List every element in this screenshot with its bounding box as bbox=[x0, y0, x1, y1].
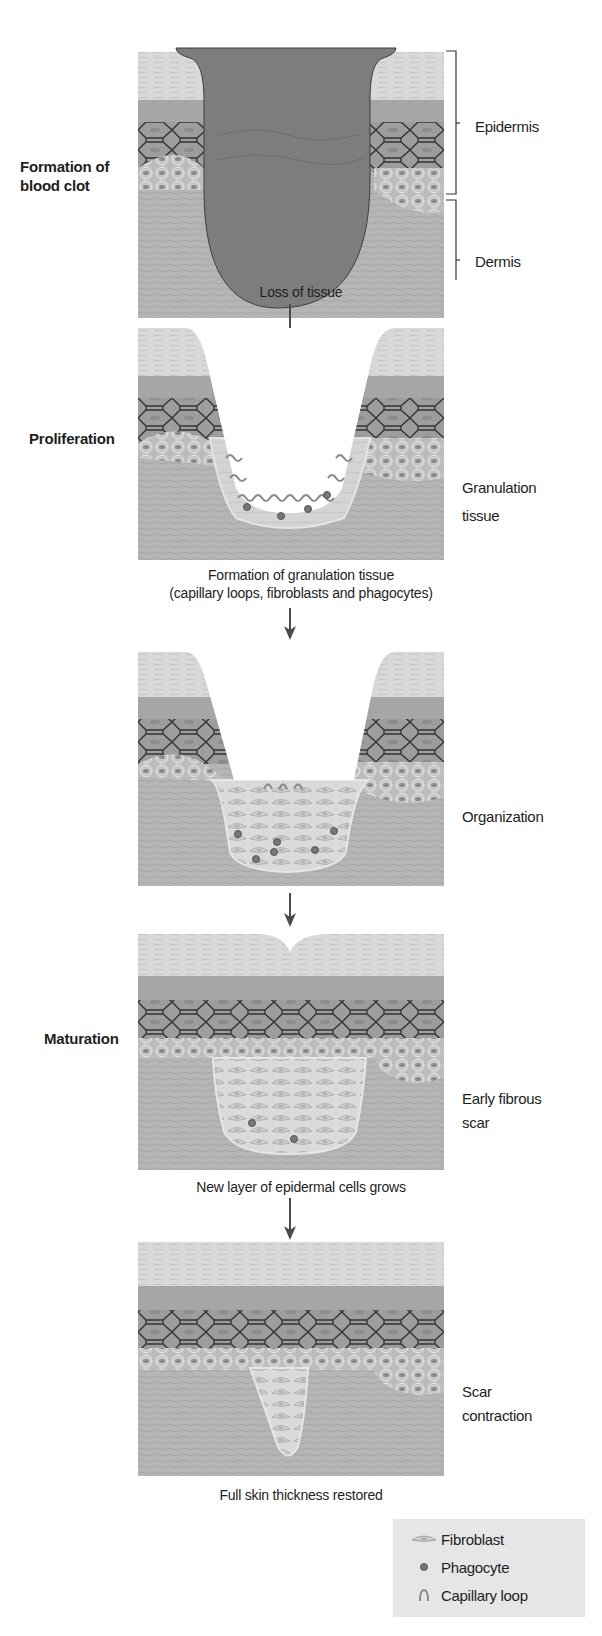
phagocyte-cell bbox=[235, 831, 242, 838]
caption-loss-of-tissue: Loss of tissue bbox=[0, 283, 602, 301]
side-label-line: contraction bbox=[462, 1406, 532, 1425]
skin-diagram-scar-contraction bbox=[138, 1242, 444, 1476]
stage-label-line: Formation of bbox=[20, 157, 109, 176]
side-label-line: Scar bbox=[462, 1382, 532, 1401]
arrow-down-icon bbox=[284, 1198, 296, 1240]
legend: Fibroblast Phagocyte Capillary loop bbox=[393, 1519, 585, 1617]
side-label-line: Granulation bbox=[462, 478, 536, 497]
side-label-line: Organization bbox=[462, 807, 543, 826]
caption-full-thickness-restored: Full skin thickness restored bbox=[0, 1486, 602, 1504]
caption-granulation-formation: Formation of granulation tissue (capilla… bbox=[0, 566, 602, 602]
stage-label-line: Proliferation bbox=[29, 429, 115, 448]
skin-diagram-maturation bbox=[138, 932, 444, 1170]
legend-item-fibroblast: Fibroblast bbox=[407, 1529, 504, 1549]
legend-label: Fibroblast bbox=[441, 1531, 504, 1548]
legend-label: Phagocyte bbox=[441, 1559, 509, 1576]
layer-bracket bbox=[446, 50, 476, 280]
phagocyte-cell bbox=[312, 847, 319, 854]
fibroblast-icon bbox=[407, 1534, 441, 1544]
phagocyte-cell bbox=[274, 839, 281, 846]
side-label-scar-contraction: Scar contraction bbox=[462, 1382, 532, 1425]
legend-item-phagocyte: Phagocyte bbox=[407, 1557, 509, 1577]
panel-blood-clot bbox=[138, 40, 444, 318]
side-label-line: Early fibrous bbox=[462, 1089, 541, 1108]
caption-new-epidermal-layer: New layer of epidermal cells grows bbox=[0, 1178, 602, 1196]
phagocyte-cell bbox=[271, 849, 278, 856]
stage-label-maturation: Maturation bbox=[44, 1029, 119, 1048]
phagocyte-cell bbox=[305, 506, 312, 513]
panel-proliferation bbox=[138, 328, 444, 560]
skin-diagram-proliferation bbox=[138, 328, 444, 560]
skin-diagram-organization bbox=[138, 652, 444, 886]
phagocyte-icon bbox=[407, 1562, 441, 1572]
panel-organization bbox=[138, 652, 444, 886]
legend-label: Capillary loop bbox=[441, 1587, 528, 1604]
side-label-line: scar bbox=[462, 1113, 541, 1132]
phagocyte-cell bbox=[249, 1120, 256, 1127]
side-label-line: tissue bbox=[462, 506, 536, 525]
stage-label-blood-clot: Formation of blood clot bbox=[20, 157, 109, 195]
stage-label-proliferation: Proliferation bbox=[29, 429, 115, 448]
skin-diagram-blood-clot bbox=[138, 40, 444, 318]
arrow-down-icon bbox=[284, 608, 296, 640]
phagocyte-cell bbox=[331, 828, 338, 835]
panel-maturation bbox=[138, 932, 444, 1170]
arrow-down-icon bbox=[284, 893, 296, 927]
phagocyte-cell bbox=[324, 492, 331, 499]
phagocyte-cell bbox=[291, 1136, 298, 1143]
side-label-granulation-tissue: Granulation tissue bbox=[462, 478, 536, 525]
phagocyte-cell bbox=[278, 513, 285, 520]
panel-scar-contraction bbox=[138, 1242, 444, 1476]
stage-label-line: blood clot bbox=[20, 176, 109, 195]
epidermis-label: Epidermis bbox=[475, 117, 539, 136]
side-label-early-fibrous-scar: Early fibrous scar bbox=[462, 1089, 541, 1132]
legend-item-capillary-loop: Capillary loop bbox=[407, 1585, 528, 1605]
stage-label-line: Maturation bbox=[44, 1029, 119, 1048]
dermis-label: Dermis bbox=[475, 252, 521, 271]
phagocyte-cell bbox=[244, 504, 251, 511]
caption-line: (capillary loops, fibroblasts and phagoc… bbox=[0, 584, 602, 602]
capillary-loop-icon bbox=[407, 1588, 441, 1602]
phagocyte-cell bbox=[253, 856, 260, 863]
caption-line: Formation of granulation tissue bbox=[0, 566, 602, 584]
side-label-organization: Organization bbox=[462, 807, 543, 826]
